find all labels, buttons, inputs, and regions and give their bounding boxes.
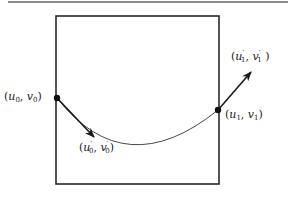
tangent-vector-end <box>218 72 251 110</box>
start-point <box>54 95 60 101</box>
label-sub: 1 <box>257 56 261 64</box>
label-sub: 0 <box>89 147 93 155</box>
label-end-tangent: (u′1, v′1 ) <box>231 50 270 64</box>
hermite-curve <box>57 98 218 145</box>
label-sub: 1 <box>254 114 258 122</box>
end-point <box>215 107 221 113</box>
label-sub: 0 <box>15 96 19 104</box>
label-start-point: (u0, v0) <box>4 91 42 104</box>
label-sub: 0 <box>105 147 109 155</box>
tangent-vector-start <box>57 98 94 137</box>
label-start-tangent: (u′0, v′0) <box>79 141 114 155</box>
label-sub: 1 <box>236 114 240 122</box>
label-end-point: (u1, v1) <box>225 109 263 122</box>
square-region <box>56 16 219 184</box>
label-sub: 0 <box>33 96 37 104</box>
label-sub: 1 <box>241 56 245 64</box>
hermite-curve-diagram <box>0 0 288 197</box>
